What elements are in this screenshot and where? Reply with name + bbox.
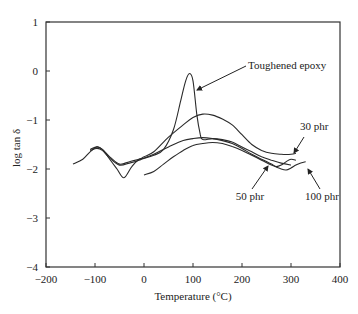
x-tick-label: 400 [332,273,349,285]
x-tick-label: 0 [141,273,147,285]
annotation-arrow [197,66,246,90]
x-tick-label: −100 [84,273,107,285]
series-lines [73,74,306,178]
x-tick-label: 300 [283,273,300,285]
y-tick-label: −4 [26,261,38,273]
x-axis-title: Temperature (°C) [154,290,232,303]
axis-ticks: −200−100010020030040010−1−2−3−4 [26,16,348,285]
y-tick-label: 1 [33,16,39,28]
y-tick-label: −3 [26,212,38,224]
x-tick-label: 100 [185,273,202,285]
x-tick-label: −200 [35,273,58,285]
annotation-arrow [252,166,268,189]
annotation-arrow [308,169,320,189]
loss-factor-chart: −200−100010020030040010−1−2−3−4 Toughene… [0,0,358,314]
annotations: Toughened epoxy30 phr50 phr100 phr [197,59,339,202]
annotation-label: 100 phr [305,190,339,202]
annotation-label: Toughened epoxy [248,59,327,71]
y-tick-label: −2 [26,163,38,175]
annotation-arrow [294,137,304,153]
annotation-label: 30 phr [300,120,329,132]
y-axis-title: log tan δ [10,129,22,167]
x-tick-label: 200 [234,273,251,285]
annotation-label: 50 phr [236,190,265,202]
y-tick-label: −1 [26,114,38,126]
y-tick-label: 0 [33,65,39,77]
